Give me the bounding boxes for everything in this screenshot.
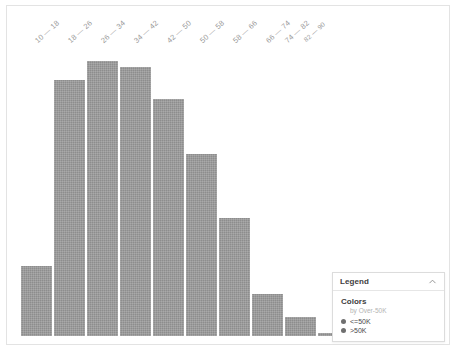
legend-section-title: Colors xyxy=(341,297,436,306)
bar-10-18[interactable] xyxy=(21,266,52,336)
bar-58-66[interactable] xyxy=(219,218,250,336)
legend-item-over-50k[interactable]: >50K xyxy=(341,327,436,334)
bar-26-34[interactable] xyxy=(87,61,118,336)
legend-header[interactable]: Legend xyxy=(333,273,444,291)
legend-panel: Legend Colors by Over-50K <=50K >50K xyxy=(332,272,445,342)
legend-color-dot-icon xyxy=(341,328,346,333)
legend-item-under-50k[interactable]: <=50K xyxy=(341,318,436,325)
bar-34-42[interactable] xyxy=(120,67,151,336)
legend-item-label: >50K xyxy=(350,327,367,334)
chevron-up-icon[interactable] xyxy=(428,277,437,286)
bar-74-82[interactable] xyxy=(285,317,316,336)
legend-item-label: <=50K xyxy=(350,318,371,325)
chart-screen: 10 — 18 18 — 26 26 — 34 34 — 42 42 — 50 … xyxy=(0,0,458,354)
legend-subtitle: by Over-50K xyxy=(350,307,436,314)
legend-color-dot-icon xyxy=(341,319,346,324)
legend-body: Colors by Over-50K <=50K >50K xyxy=(333,291,444,341)
bar-50-58[interactable] xyxy=(186,154,217,336)
bar-18-26[interactable] xyxy=(54,80,85,336)
bar-66-74[interactable] xyxy=(252,294,283,336)
legend-title: Legend xyxy=(340,277,369,286)
bar-42-50[interactable] xyxy=(153,99,184,336)
